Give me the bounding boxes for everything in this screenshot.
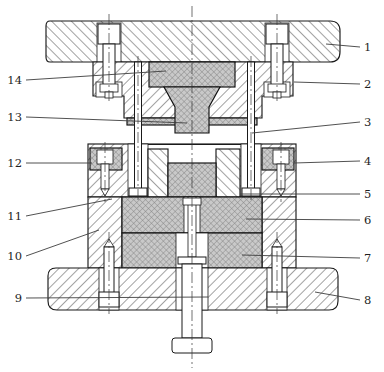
callout-label-8: 8 — [364, 293, 371, 307]
callout-label-6: 6 — [364, 213, 371, 227]
callout-label-11: 11 — [7, 209, 22, 223]
callout-label-5: 5 — [364, 187, 371, 201]
die-insert-right — [216, 149, 240, 197]
callout-label-1: 1 — [364, 40, 371, 54]
callout-label-3: 3 — [364, 115, 371, 129]
callout-label-9: 9 — [15, 291, 22, 305]
callout-label-13: 13 — [7, 110, 22, 124]
upper-die-shoe — [46, 21, 340, 62]
drawing-canvas: 1234567891011121314 — [0, 0, 384, 372]
callout-label-4: 4 — [364, 154, 371, 168]
callout-label-10: 10 — [7, 249, 22, 263]
callout-label-7: 7 — [364, 251, 371, 265]
die-assembly-drawing: 1234567891011121314 — [0, 0, 384, 372]
callout-label-12: 12 — [7, 156, 22, 170]
callout-label-14: 14 — [7, 73, 22, 87]
leader-line-2 — [294, 82, 360, 84]
leader-line-4 — [294, 161, 360, 163]
callout-label-2: 2 — [364, 77, 371, 91]
die-insert-left — [148, 149, 168, 197]
leader-line-3 — [252, 122, 360, 133]
